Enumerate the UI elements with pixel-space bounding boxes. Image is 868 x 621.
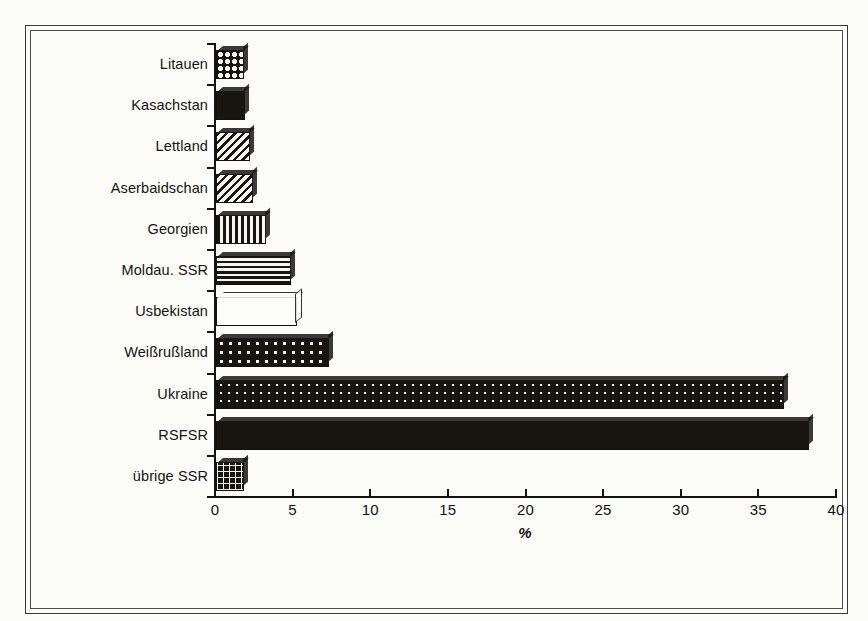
bar-row: übrige SSR <box>0 456 868 497</box>
category-label: Lettland <box>0 126 208 167</box>
plot-area: 0510152025303540 LitauenKasachstanLettla… <box>0 0 868 621</box>
x-axis-tick-label: 30 <box>672 501 689 518</box>
bar <box>216 174 253 203</box>
bar-container <box>216 338 329 367</box>
category-label: Usbekistan <box>0 291 208 332</box>
x-axis-tick-label: 0 <box>211 501 220 518</box>
category-label: RSFSR <box>0 415 208 456</box>
category-label: übrige SSR <box>0 456 208 497</box>
bar <box>216 50 244 79</box>
category-label: Kasachstan <box>0 85 208 126</box>
bar-row: Usbekistan <box>0 291 868 332</box>
x-axis-tick-label: 15 <box>439 501 456 518</box>
bar <box>216 132 250 161</box>
bar <box>216 338 329 367</box>
x-axis-tick-label: 20 <box>517 501 534 518</box>
x-axis-tick-label: 40 <box>827 501 844 518</box>
bar-row: Lettland <box>0 126 868 167</box>
bar-row: Kasachstan <box>0 85 868 126</box>
x-axis-tick-label: 35 <box>750 501 767 518</box>
x-axis-tick-label: 5 <box>288 501 297 518</box>
bar-container <box>216 297 297 326</box>
chart-page: 0510152025303540 LitauenKasachstanLettla… <box>0 0 868 621</box>
bar-container <box>216 91 245 120</box>
bar-row: Weißrußland <box>0 332 868 373</box>
bar-row: Aserbaidschan <box>0 168 868 209</box>
category-label: Litauen <box>0 44 208 85</box>
bar <box>216 91 245 120</box>
x-axis-tick-label: 10 <box>362 501 379 518</box>
bar-container <box>216 50 244 79</box>
bar-container <box>216 215 266 244</box>
bar <box>216 297 297 326</box>
bar <box>216 462 244 491</box>
bar-row: Georgien <box>0 209 868 250</box>
bar-container <box>216 132 250 161</box>
bar <box>216 421 809 450</box>
bar-row: Ukraine <box>0 374 868 415</box>
category-label: Aserbaidschan <box>0 168 208 209</box>
bar-container <box>216 380 784 409</box>
bar-container <box>216 256 291 285</box>
bar-row: Moldau. SSR <box>0 250 868 291</box>
bar-row: RSFSR <box>0 415 868 456</box>
bar <box>216 215 266 244</box>
category-label: Georgien <box>0 209 208 250</box>
category-label: Moldau. SSR <box>0 250 208 291</box>
bar-container <box>216 462 244 491</box>
x-axis-title: % <box>518 524 531 541</box>
x-axis-tick-label: 25 <box>595 501 612 518</box>
bar-row: Litauen <box>0 44 868 85</box>
bar <box>216 380 784 409</box>
category-label: Weißrußland <box>0 332 208 373</box>
bar <box>216 256 291 285</box>
bar-container <box>216 421 809 450</box>
category-label: Ukraine <box>0 374 208 415</box>
bar-container <box>216 174 253 203</box>
